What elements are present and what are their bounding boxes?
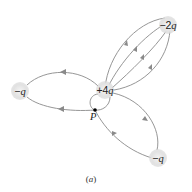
field-line (113, 93, 158, 150)
point-p: P (89, 108, 97, 122)
field-line (112, 30, 167, 88)
arrow-icon (58, 106, 64, 112)
arrow-icon (60, 69, 66, 75)
arrow-icon (148, 64, 152, 70)
charge-label: −2q (159, 19, 176, 31)
charge-bottom-right: −q (149, 149, 167, 167)
arrow-icon (133, 46, 137, 52)
field-line (108, 24, 165, 87)
field-line (95, 110, 152, 158)
charge-left: −q (11, 82, 29, 100)
electric-field-diagram: +4q −2q −q −q P (a) (0, 0, 192, 192)
point-label: P (89, 111, 97, 122)
charge-top-right: −2q (159, 16, 177, 34)
field-lines-to-bottom-right-charge (95, 93, 158, 158)
arrow-icon (142, 116, 148, 121)
field-line (27, 72, 98, 86)
field-line (105, 18, 165, 88)
figure-caption: (a) (86, 174, 97, 184)
field-lines-to-left-charge (27, 69, 98, 112)
charge-label: −q (152, 152, 163, 164)
arrow-icon (112, 131, 117, 136)
charge-label: −q (14, 85, 25, 97)
charge-center: +4q (96, 81, 114, 99)
charge-label: +4q (96, 84, 113, 96)
